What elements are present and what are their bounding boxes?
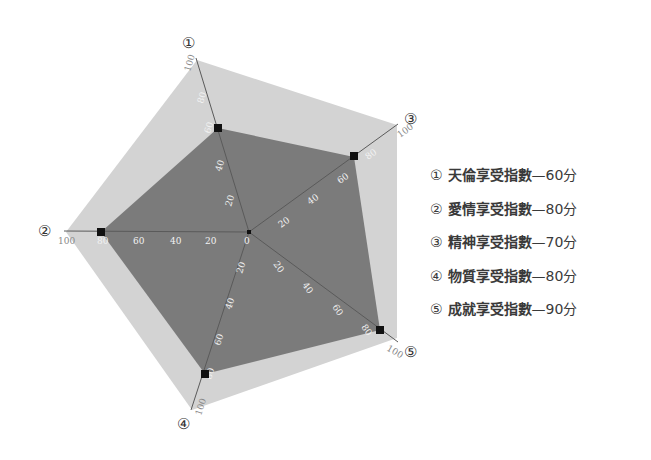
legend-label: 精神享受指數 [448, 234, 532, 250]
legend-label: 物質享受指數 [448, 268, 532, 284]
svg-text:40: 40 [170, 236, 182, 246]
svg-text:60: 60 [133, 236, 145, 246]
axis-label-3: ③ [404, 110, 417, 128]
axis-label-4: ④ [177, 415, 190, 433]
legend: ①天倫享受指數—60分 ②愛情享受指數—80分 ③精神享受指數—70分 ④物質享… [430, 162, 577, 330]
legend-num: ③ [430, 234, 443, 250]
axis-label-1: ① [182, 34, 195, 52]
legend-num: ② [430, 201, 443, 217]
legend-value: —80分 [532, 268, 578, 284]
svg-text:100: 100 [385, 343, 405, 360]
axis-label-2: ② [38, 222, 51, 240]
legend-label: 天倫享受指數 [448, 167, 532, 183]
legend-value: —60分 [532, 167, 578, 183]
legend-item: ④物質享受指數—80分 [430, 263, 577, 297]
legend-item: ①天倫享受指數—60分 [430, 162, 577, 196]
svg-text:100: 100 [58, 236, 75, 246]
svg-text:0: 0 [244, 236, 250, 246]
axis-label-5: ⑤ [404, 343, 417, 361]
marker-5 [376, 326, 384, 334]
marker-1 [214, 124, 222, 132]
legend-num: ④ [430, 268, 443, 284]
svg-text:20: 20 [205, 236, 217, 246]
legend-value: —70分 [532, 234, 578, 250]
marker-3 [350, 152, 358, 160]
legend-item: ③精神享受指數—70分 [430, 229, 577, 263]
legend-item: ⑤成就享受指數—90分 [430, 296, 577, 330]
legend-num: ① [430, 167, 443, 183]
legend-label: 愛情享受指數 [448, 201, 532, 217]
legend-num: ⑤ [430, 301, 443, 317]
marker-4 [201, 370, 209, 378]
center-point [247, 230, 251, 234]
legend-value: —80分 [532, 201, 578, 217]
svg-text:80: 80 [97, 236, 109, 246]
legend-label: 成就享受指數 [448, 301, 532, 317]
legend-value: —90分 [532, 301, 578, 317]
legend-item: ②愛情享受指數—80分 [430, 196, 577, 230]
marker-2 [97, 228, 105, 236]
